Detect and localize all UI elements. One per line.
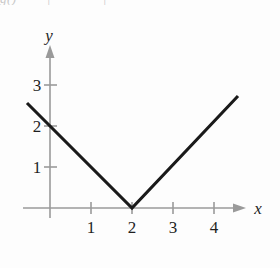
x-tick-label-3: 3: [169, 218, 178, 237]
figure-container: g()|| 1 2 3 4 1 2 3 x y: [0, 0, 280, 268]
y-tick-label-3: 3: [33, 76, 42, 95]
x-axis-arrowhead: [233, 204, 246, 213]
y-axis-arrowhead: [46, 45, 55, 58]
y-tick-label-1: 1: [33, 158, 42, 177]
y-axis-label: y: [43, 26, 53, 45]
x-tick-label-4: 4: [210, 218, 219, 237]
x-tick-label-2: 2: [128, 218, 137, 237]
x-axis-label: x: [253, 199, 262, 218]
curve-abs-value: [27, 96, 238, 208]
y-tick-label-2: 2: [33, 117, 42, 136]
x-tick-label-1: 1: [87, 218, 96, 237]
absolute-value-graph: 1 2 3 4 1 2 3 x y: [0, 0, 280, 268]
